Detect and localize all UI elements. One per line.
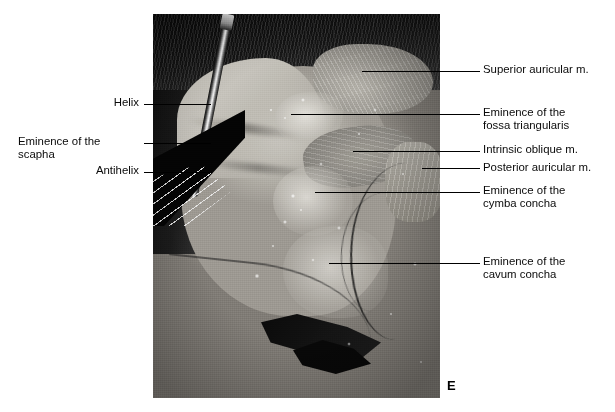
leader-line-eminence-of-the-cymba-concha	[315, 192, 480, 193]
leader-line-eminence-of-the-fossa-triangularis	[291, 114, 480, 115]
leader-line-scapha	[144, 143, 211, 144]
label-eminence-of-the-cavum-concha: Eminence of the cavum concha	[483, 255, 611, 281]
label-helix: Helix	[18, 96, 139, 109]
label-intrinsic-oblique-m: Intrinsic oblique m.	[483, 143, 611, 156]
label-eminence-of-the-fossa-triangularis: Eminence of the fossa triangularis	[483, 106, 611, 132]
label-antihelix: Antihelix	[18, 164, 139, 177]
label-superior-auricular-m: Superior auricular m.	[483, 63, 611, 76]
leader-line-eminence-of-the-cavum-concha	[329, 263, 480, 264]
leader-line-antihelix	[144, 172, 211, 173]
panel-letter: E	[447, 378, 456, 393]
leader-line-helix	[144, 104, 211, 105]
label-posterior-auricular-m: Posterior auricular m.	[483, 161, 615, 174]
label-eminence-of-the-scapha: Eminence of the scapha	[18, 135, 139, 161]
label-eminence-of-the-cymba-concha: Eminence of the cymba concha	[483, 184, 611, 210]
leader-line-superior-auricular-m	[362, 71, 480, 72]
anatomy-figure: Helix Eminence of the scapha Antihelix S…	[0, 0, 615, 412]
leader-line-posterior-auricular-m	[422, 168, 480, 169]
leader-line-intrinsic-oblique-m	[353, 151, 480, 152]
